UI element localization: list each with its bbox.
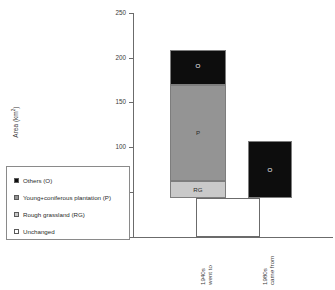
x-axis-line xyxy=(133,237,333,238)
y-tick-label-250: 250 xyxy=(100,10,126,16)
y-axis-title-sup: 2 xyxy=(11,109,16,112)
y-axis-title: Area (km2) xyxy=(11,87,19,157)
bar2-segment-others: O xyxy=(248,141,292,198)
legend-label-unchanged: Unchanged xyxy=(23,228,55,235)
y-tick-label-200: 200 xyxy=(100,55,126,61)
y-tick-200 xyxy=(129,58,134,59)
legend: Others (O) Young+coniferous plantation (… xyxy=(6,166,130,240)
bar1-segment-plantation: P xyxy=(170,85,226,181)
bar1-label-o: O xyxy=(171,62,225,69)
bar1-label-rg: RG xyxy=(171,186,225,193)
legend-swatch-rough-grassland-icon xyxy=(14,212,19,217)
chart-root: 250 200 150 100 50 0 Area (km2) O P RG O… xyxy=(0,0,335,290)
legend-item-unchanged[interactable]: Unchanged xyxy=(14,226,55,236)
y-tick-100 xyxy=(129,147,134,148)
legend-label-rough-grassland: Rough grassland (RG) xyxy=(23,211,85,218)
x-label-1980s-line1: 1980s xyxy=(261,268,268,285)
bar2-label-o: O xyxy=(249,166,291,173)
y-axis-title-text: Area (km xyxy=(12,111,19,137)
x-label-1940s-line1: 1940s xyxy=(199,268,206,285)
x-label-1940s-line2: went to xyxy=(206,265,213,285)
legend-item-others[interactable]: Others (O) xyxy=(14,175,52,185)
y-axis-line xyxy=(133,13,134,238)
legend-swatch-unchanged-icon xyxy=(14,229,19,234)
x-label-1980s-line2: came from xyxy=(268,256,275,285)
legend-item-plantation[interactable]: Young+coniferous plantation (P) xyxy=(14,192,111,202)
bar-segment-unchanged xyxy=(196,198,260,237)
bar1-segment-others: O xyxy=(170,50,226,85)
y-axis-title-end: ) xyxy=(12,107,19,109)
legend-label-plantation: Young+coniferous plantation (P) xyxy=(23,194,111,201)
legend-item-rough-grassland[interactable]: Rough grassland (RG) xyxy=(14,209,85,219)
legend-label-others: Others (O) xyxy=(23,177,52,184)
y-tick-150 xyxy=(129,102,134,103)
plot-area: 250 200 150 100 50 0 Area (km2) O P RG O… xyxy=(0,0,335,290)
y-tick-250 xyxy=(129,13,134,14)
y-tick-label-100: 100 xyxy=(100,144,126,150)
bar1-segment-rough-grassland: RG xyxy=(170,181,226,198)
legend-swatch-others-icon xyxy=(14,178,19,183)
y-tick-label-150: 150 xyxy=(100,99,126,105)
legend-swatch-plantation-icon xyxy=(14,195,19,200)
bar1-label-p: P xyxy=(171,129,225,136)
